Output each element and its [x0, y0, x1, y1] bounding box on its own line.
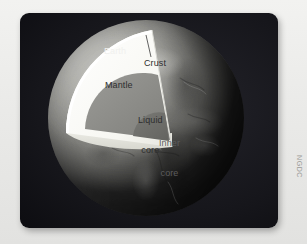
cutaway-wedge	[20, 13, 278, 228]
illustration-panel: Earth Crust Mantle Liquid core Inner cor…	[20, 13, 278, 228]
figure-canvas: Earth Crust Mantle Liquid core Inner cor…	[0, 0, 307, 244]
credit-watermark: NGDC	[296, 155, 303, 178]
